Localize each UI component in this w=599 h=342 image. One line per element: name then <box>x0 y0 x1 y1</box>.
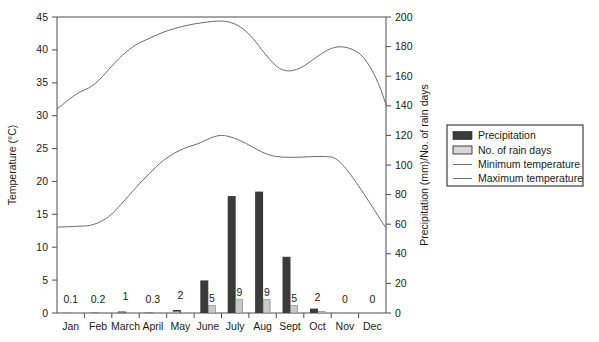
left-axis-ticks: 0 5 10 15 20 25 30 35 40 45 <box>36 11 57 319</box>
right-tick-label-10: 200 <box>395 11 413 23</box>
right-axis-title: Precipitation (mm)/No. of rain days <box>418 84 430 246</box>
max-temperature-curve <box>57 21 386 109</box>
bar-value-labels: 0.1 0.2 1 0.3 2 2 0 0 5 9 9 5 <box>63 286 375 305</box>
x-axis-ticks <box>84 313 358 318</box>
category-label-oct: Oct <box>309 320 325 332</box>
bar-label-raindays-july: 9 <box>236 286 242 298</box>
category-label-feb: Feb <box>89 320 107 332</box>
bar-label-raindays-aug: 9 <box>264 286 270 298</box>
bar-precipitation-aug <box>255 192 263 313</box>
right-tick-label-2: 40 <box>395 247 407 259</box>
legend-swatch-precipitation <box>453 132 472 140</box>
legend: Precipitation No. of rain days Minimum t… <box>447 125 583 186</box>
left-tick-label-0: 0 <box>42 307 48 319</box>
category-label-april: April <box>142 320 163 332</box>
bar-label-feb: 0.2 <box>91 293 106 305</box>
right-tick-label-5: 100 <box>395 159 413 171</box>
chart-canvas: 0 5 10 15 20 25 30 35 40 45 Temperature … <box>0 0 599 342</box>
x-axis-category-labels: Jan Feb March April May June July Aug Se… <box>62 320 381 332</box>
category-label-june: June <box>196 320 219 332</box>
climate-chart: 0 5 10 15 20 25 30 35 40 45 Temperature … <box>0 0 599 342</box>
right-tick-label-1: 20 <box>395 277 407 289</box>
left-tick-label-6: 30 <box>36 109 48 121</box>
right-tick-label-6: 120 <box>395 129 413 141</box>
left-tick-label-7: 35 <box>36 76 48 88</box>
right-tick-label-4: 80 <box>395 188 407 200</box>
category-label-nov: Nov <box>336 320 355 332</box>
right-tick-label-3: 60 <box>395 218 407 230</box>
bar-label-oct: 2 <box>315 291 321 303</box>
left-tick-label-2: 10 <box>36 241 48 253</box>
category-label-dec: Dec <box>363 320 382 332</box>
left-axis-title: Temperature (°C) <box>6 125 18 206</box>
bar-label-may: 2 <box>177 289 183 301</box>
bar-raindays-oct <box>318 312 325 314</box>
left-tick-label-3: 15 <box>36 208 48 220</box>
right-tick-label-0: 0 <box>395 307 401 319</box>
bar-precipitation-june <box>200 280 208 313</box>
category-label-may: May <box>170 320 191 332</box>
legend-label-max-temperature: Maximum temperature <box>478 172 583 184</box>
legend-swatch-rain-days <box>453 146 472 154</box>
legend-label-min-temperature: Minimum temperature <box>478 158 580 170</box>
bar-raindays-aug <box>263 300 270 313</box>
bar-precipitation-july <box>228 196 236 313</box>
bar-label-raindays-sept: 5 <box>291 292 297 304</box>
right-tick-label-9: 180 <box>395 40 413 52</box>
bar-label-march: 1 <box>123 290 129 302</box>
min-temperature-curve <box>57 135 386 228</box>
bar-raindays-march <box>118 312 125 313</box>
category-label-march: March <box>111 320 140 332</box>
bar-raindays-sept <box>291 306 298 313</box>
bar-label-raindays-june: 5 <box>209 292 215 304</box>
bar-label-dec: 0 <box>369 293 375 305</box>
legend-label-rain-days: No. of rain days <box>478 144 552 156</box>
category-label-aug: Aug <box>253 320 272 332</box>
bar-label-april: 0.3 <box>146 293 161 305</box>
category-label-jan: Jan <box>62 320 79 332</box>
plot-frame <box>57 17 386 313</box>
right-axis-ticks: 0 20 40 60 80 100 120 140 160 180 200 <box>386 11 413 319</box>
category-label-july: July <box>226 320 245 332</box>
left-tick-label-4: 20 <box>36 175 48 187</box>
bar-label-nov: 0 <box>342 293 348 305</box>
left-tick-label-5: 25 <box>36 142 48 154</box>
left-tick-label-8: 40 <box>36 43 48 55</box>
bar-label-jan: 0.1 <box>63 293 78 305</box>
bar-raindays-june <box>208 306 215 313</box>
legend-label-precipitation: Precipitation <box>478 129 536 141</box>
category-label-sept: Sept <box>279 320 301 332</box>
bar-precipitation-sept <box>283 257 291 313</box>
bar-raindays-may <box>173 312 180 314</box>
bar-precipitation-oct <box>310 309 318 313</box>
left-tick-label-9: 45 <box>36 11 48 23</box>
bar-raindays-july <box>236 300 243 313</box>
right-tick-label-8: 160 <box>395 70 413 82</box>
right-tick-label-7: 140 <box>395 99 413 111</box>
left-tick-label-1: 5 <box>42 274 48 286</box>
